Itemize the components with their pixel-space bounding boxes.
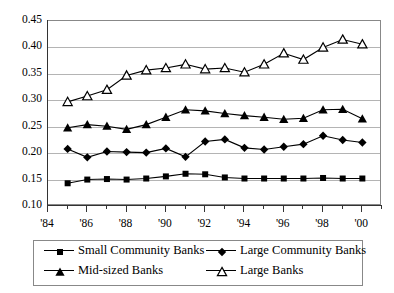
data-point [340,176,346,182]
data-point [142,120,151,128]
data-point [220,63,229,71]
series-line [68,136,363,158]
data-point [222,174,228,180]
x-tick-label: '84 [32,218,62,230]
series-large-community-banks [63,132,366,162]
x-tick [86,206,87,212]
legend-marker-icon [206,245,236,257]
legend-item[interactable]: Mid-sized Banks [44,264,163,277]
x-tick-label: '86 [71,218,101,230]
x-tick [224,206,225,209]
data-point [142,148,150,156]
x-tick [165,206,166,212]
x-tick [47,206,48,212]
x-tick-label: '92 [189,218,219,230]
data-point [300,176,306,182]
data-point [83,120,92,128]
x-tick [302,206,303,209]
data-point [103,147,111,155]
x-tick [106,206,107,209]
series-line [68,40,363,102]
series-line [68,174,363,184]
data-point [240,144,248,152]
x-tick [342,206,343,209]
data-point [143,176,149,182]
legend-marker-icon [44,245,74,257]
series-large-banks [63,35,367,106]
x-axis-line [47,205,382,206]
y-tick-label: 0.10 [0,199,42,211]
legend-item[interactable]: Large Banks [206,264,303,277]
data-point [281,176,287,182]
series-mid-sized-banks [63,105,367,133]
data-point [280,143,288,151]
x-tick [381,206,382,209]
data-point [161,113,170,121]
data-point [320,175,326,181]
x-tick [204,206,205,212]
data-point [183,171,189,177]
x-tick [322,206,323,212]
data-point [339,136,347,144]
data-point [202,171,208,177]
x-tick [185,206,186,209]
data-point [163,173,169,179]
x-tick-label: '96 [268,218,298,230]
x-tick-label: '90 [150,218,180,230]
legend-marker-icon [206,265,236,277]
x-tick [145,206,146,209]
x-tick-label: '00 [346,218,376,230]
y-tick-label: 0.15 [0,173,42,185]
x-tick [283,206,284,212]
chart-container: 0.450.400.350.300.250.200.150.10 '84'86'… [0,0,394,293]
x-tick [243,206,244,212]
data-point [260,60,269,68]
data-point [359,176,365,182]
data-point [241,176,247,182]
data-point [261,176,267,182]
legend-label: Large Community Banks [240,244,366,257]
legend-label: Mid-sized Banks [78,264,163,277]
data-point [122,148,130,156]
data-point [102,85,111,93]
data-point [181,105,190,113]
legend-marker-icon [44,265,74,277]
y-axis-line [47,20,48,206]
data-point [318,43,327,51]
plot-area [47,20,381,205]
series-layer [48,21,382,206]
data-point [358,114,367,122]
series-line [68,109,363,129]
data-point [63,145,71,153]
x-tick [361,206,362,212]
chart-legend: Small Community BanksLarge Community Ban… [33,240,363,286]
legend-item[interactable]: Large Community Banks [206,244,366,257]
data-point [221,135,229,143]
data-point [279,49,288,57]
y-tick-label: 0.40 [0,40,42,52]
legend-label: Small Community Banks [78,244,204,257]
y-tick-label: 0.35 [0,67,42,79]
data-point [162,144,170,152]
legend-item[interactable]: Small Community Banks [44,244,204,257]
data-point [104,176,110,182]
y-tick-label: 0.25 [0,120,42,132]
data-point [358,138,366,146]
data-point [299,114,308,122]
x-tick-label: '94 [228,218,258,230]
data-point [260,145,268,153]
data-point [124,177,130,183]
x-tick-label: '98 [307,218,337,230]
y-tick-label: 0.30 [0,93,42,105]
data-point [84,177,90,183]
data-point [299,140,307,148]
y-tick-label: 0.45 [0,14,42,26]
data-point [65,180,71,186]
data-point [83,153,91,161]
series-small-community-banks [65,171,366,187]
legend-label: Large Banks [240,264,303,277]
y-tick-label: 0.20 [0,146,42,158]
x-tick [126,206,127,212]
data-point [319,132,327,140]
x-tick [263,206,264,209]
